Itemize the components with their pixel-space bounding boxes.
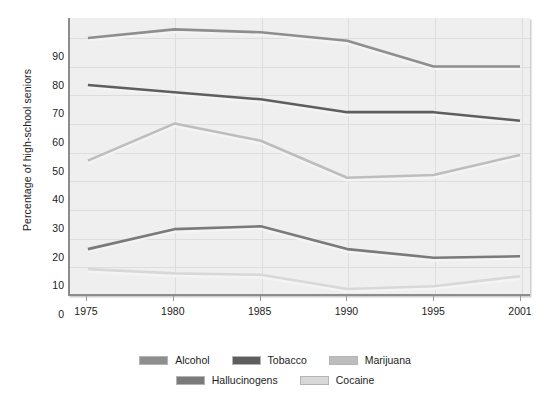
legend-row: HallucinogensCocaine: [0, 370, 550, 390]
legend-label: Alcohol: [175, 354, 209, 366]
y-tick-label: 30: [38, 222, 64, 234]
y-tick-label: 60: [38, 136, 64, 148]
y-tick-label: 70: [38, 107, 64, 119]
legend-label: Tobacco: [268, 354, 307, 366]
x-tick-mark: [520, 296, 521, 301]
legend-item-alcohol[interactable]: Alcohol: [139, 354, 209, 366]
y-tick-label: 40: [38, 193, 64, 205]
legend-item-hallucinogens[interactable]: Hallucinogens: [176, 374, 278, 386]
x-tick-label: 1975: [61, 305, 111, 317]
series-lines: [70, 18, 530, 294]
series-line-tobacco: [88, 85, 520, 121]
legend-swatch-icon: [176, 376, 205, 385]
y-tick-label: 10: [38, 279, 64, 291]
x-tick-label: 2001: [495, 305, 545, 317]
x-axis-tick-labels: 197519801985199019952001: [68, 296, 530, 326]
series-line-hallucinogens: [88, 226, 520, 257]
x-tick-mark: [86, 296, 87, 301]
x-tick-mark: [173, 296, 174, 301]
plot-inner: [70, 18, 530, 294]
legend-label: Cocaine: [336, 374, 375, 386]
x-tick-label: 1980: [148, 305, 198, 317]
x-tick-mark: [433, 296, 434, 301]
x-tick-label: 1990: [321, 305, 371, 317]
y-axis-tick-labels: 9080706050403020100: [36, 18, 64, 296]
legend-label: Hallucinogens: [212, 374, 278, 386]
legend-item-cocaine[interactable]: Cocaine: [300, 374, 375, 386]
legend-swatch-icon: [139, 356, 168, 365]
y-axis-title: Percentage of high-school seniors: [16, 0, 38, 300]
plot-area: [68, 18, 530, 296]
legend-swatch-icon: [300, 376, 329, 385]
legend-row: AlcoholTobaccoMarijuana: [0, 350, 550, 370]
x-tick-label: 1995: [408, 305, 458, 317]
series-line-marijuana: [88, 124, 520, 178]
legend-swatch-icon: [329, 356, 358, 365]
y-tick-label: 80: [38, 79, 64, 91]
legend-item-marijuana[interactable]: Marijuana: [329, 354, 411, 366]
y-tick-label: 20: [38, 251, 64, 263]
line-chart-figure: Percentage of high-school seniors 908070…: [0, 0, 550, 398]
x-tick-label: 1985: [235, 305, 285, 317]
series-line-shadow: [88, 228, 520, 259]
x-tick-mark: [260, 296, 261, 301]
legend-swatch-icon: [232, 356, 261, 365]
legend-item-tobacco[interactable]: Tobacco: [232, 354, 307, 366]
y-tick-label: 90: [38, 50, 64, 62]
chart-legend: AlcoholTobaccoMarijuanaHallucinogensCoca…: [0, 350, 550, 396]
legend-label: Marijuana: [365, 354, 411, 366]
x-tick-mark: [346, 296, 347, 301]
y-tick-label: 50: [38, 165, 64, 177]
